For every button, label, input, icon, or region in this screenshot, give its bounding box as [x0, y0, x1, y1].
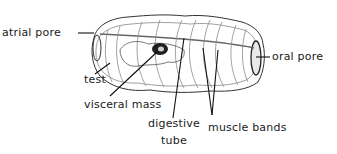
label-test: test [84, 74, 106, 86]
label-muscle-bands: muscle bands [208, 122, 287, 134]
leader-muscle-band-1 [203, 48, 212, 115]
digestive-tube-shape [120, 42, 184, 67]
label-digestive-tube-line2: tube [146, 135, 202, 147]
leader-muscle-band-2 [212, 50, 218, 115]
label-oral-pore: oral pore [272, 51, 323, 63]
label-digestive-tube: digestive tube [146, 118, 202, 147]
muscle-bands-group [105, 20, 248, 88]
label-visceral-mass: visceral mass [84, 99, 161, 111]
oral-pore-shape [251, 41, 261, 75]
label-atrial-pore: atrial pore [2, 27, 61, 39]
leader-digestive-tube [173, 38, 184, 118]
label-digestive-tube-line1: digestive [146, 118, 202, 130]
visceral-mass-highlight [158, 47, 164, 52]
atrial-pore-shape [93, 35, 101, 61]
